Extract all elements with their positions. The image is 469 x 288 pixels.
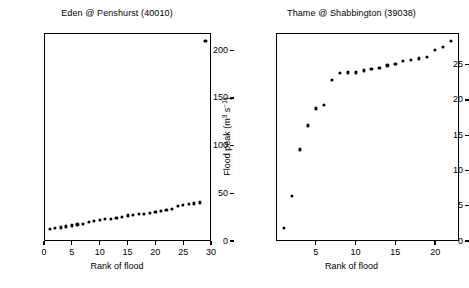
x-axis-tick-label: 25 xyxy=(178,248,188,257)
panel-title-right: Thame @ Shabbington (39038) xyxy=(234,8,469,18)
x-axis-tick-label: 10 xyxy=(95,248,105,257)
x-axis-tick-label: 5 xyxy=(69,248,74,257)
y-axis-tick-mark xyxy=(465,240,469,241)
x-axis-tick-mark xyxy=(315,241,316,245)
y-axis-tick-label: 5 xyxy=(458,201,465,210)
x-axis-tick-mark xyxy=(355,241,356,245)
chart-panel-eden-penshurst: Eden @ Penshurst (40010) 050100150200051… xyxy=(0,0,234,288)
x-axis-tick-mark xyxy=(183,241,184,245)
y-axis-tick-mark xyxy=(465,170,469,171)
x-axis-tick-label: 15 xyxy=(123,248,133,257)
x-axis-tick-label: 15 xyxy=(390,248,400,257)
y-axis-tick-label: 10 xyxy=(453,165,465,174)
x-axis-title-left: Rank of flood xyxy=(0,261,234,271)
y-axis-tick-label: 0 xyxy=(458,236,465,245)
y-axis-tick-label: 20 xyxy=(453,95,465,104)
x-axis-tick-mark xyxy=(71,241,72,245)
panel-title-left: Eden @ Penshurst (40010) xyxy=(0,8,234,18)
plot-area-left xyxy=(44,33,211,241)
plot-area-right xyxy=(276,33,459,241)
y-axis-tick-label: 200 xyxy=(213,45,230,54)
y-axis-tick-mark xyxy=(465,135,469,136)
x-axis-tick-label: 30 xyxy=(206,248,216,257)
y-axis-tick-mark xyxy=(465,99,469,100)
x-axis-tick-label: 10 xyxy=(351,248,361,257)
y-axis-tick-mark xyxy=(465,205,469,206)
chart-panel-thame-shabbington: Thame @ Shabbington (39038) 051015202551… xyxy=(234,0,469,288)
x-axis-tick-label: 20 xyxy=(430,248,440,257)
x-axis-tick-mark xyxy=(395,241,396,245)
x-axis-tick-label: 20 xyxy=(150,248,160,257)
x-axis-tick-mark xyxy=(210,241,211,245)
x-axis-title-right: Rank of flood xyxy=(234,261,469,271)
x-axis-tick-mark xyxy=(127,241,128,245)
x-axis-tick-mark xyxy=(434,241,435,245)
y-axis-tick-label: 0 xyxy=(223,236,230,245)
y-axis-title-right: Flood peak (m3 s−1) xyxy=(221,77,232,197)
x-axis-tick-mark xyxy=(99,241,100,245)
x-axis-tick-mark xyxy=(43,241,44,245)
x-axis-tick-mark xyxy=(155,241,156,245)
x-axis-tick-label: 0 xyxy=(42,248,47,257)
y-axis-tick-label: 15 xyxy=(453,130,465,139)
x-axis-tick-label: 5 xyxy=(313,248,318,257)
y-axis-tick-label: 25 xyxy=(453,60,465,69)
flood-frequency-figure: Eden @ Penshurst (40010) 050100150200051… xyxy=(0,0,469,288)
y-axis-tick-mark xyxy=(465,64,469,65)
